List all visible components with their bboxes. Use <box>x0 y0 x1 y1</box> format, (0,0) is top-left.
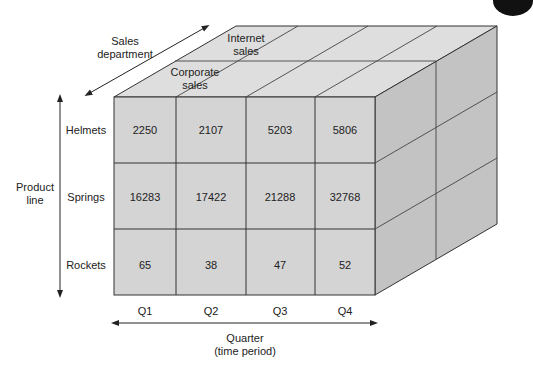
product-label-rockets: Rockets <box>66 259 106 271</box>
cell-value: 52 <box>339 259 351 271</box>
product-axis-label: Product <box>16 181 54 193</box>
product-axis-label: line <box>26 194 43 206</box>
quarter-label: Q1 <box>138 305 153 317</box>
quarter-axis-label: Quarter <box>226 332 264 344</box>
depth-slice-label: sales <box>233 45 259 57</box>
cell-value: 65 <box>139 259 151 271</box>
cell-value: 17422 <box>196 191 227 203</box>
depth-slice-label: sales <box>182 79 208 91</box>
cell-value: 21288 <box>265 191 296 203</box>
cell-value: 47 <box>274 259 286 271</box>
product-label-springs: Springs <box>67 191 105 203</box>
quarter-label: Q2 <box>204 305 219 317</box>
quarter-label: Q4 <box>338 305 353 317</box>
depth-slice-label: Internet <box>227 32 264 44</box>
cell-value: 32768 <box>330 191 361 203</box>
cell-value: 2250 <box>133 124 157 136</box>
sales-department-axis-label: Sales <box>111 35 139 47</box>
cell-value: 2107 <box>199 124 223 136</box>
cell-value: 38 <box>205 259 217 271</box>
depth-slice-label: Corporate <box>171 66 220 78</box>
sales-department-axis-label: department <box>97 48 153 60</box>
cell-value: 5203 <box>268 124 292 136</box>
quarter-label: Q3 <box>273 305 288 317</box>
quarter-axis-label: (time period) <box>214 345 276 357</box>
cell-value: 5806 <box>333 124 357 136</box>
cell-value: 16283 <box>130 191 161 203</box>
product-label-helmets: Helmets <box>66 124 107 136</box>
